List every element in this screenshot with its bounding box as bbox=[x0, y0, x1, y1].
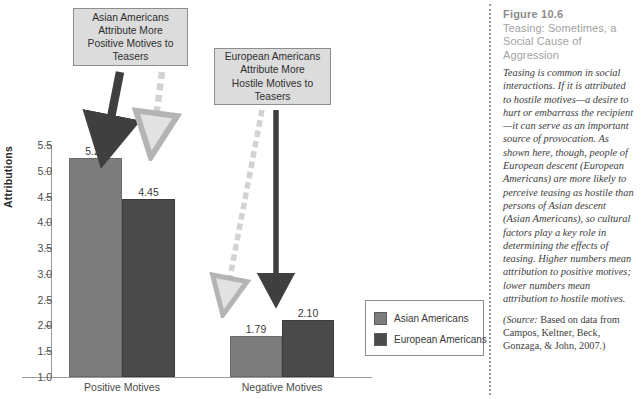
source-word: (Source: bbox=[503, 314, 538, 325]
bar-positive-asian bbox=[69, 158, 122, 377]
dashed-arrow-positive bbox=[155, 72, 162, 125]
y-tick-label: 3.5 bbox=[6, 242, 52, 254]
bar-negative-asian bbox=[230, 336, 282, 377]
callout-line: Teasers bbox=[225, 90, 321, 103]
callout-asian-positive: Asian Americans Attribute More Positive … bbox=[73, 8, 188, 66]
bar-value-negative-asian: 1.79 bbox=[246, 323, 266, 335]
y-tick-label: 5.0 bbox=[6, 165, 52, 177]
y-tick-label: 2.5 bbox=[6, 294, 52, 306]
figure-root: Attributions 1.0 1.5 2.0 2.5 3.0 3.5 4.0… bbox=[0, 0, 641, 399]
legend-item-asian-americans: Asian Americans bbox=[374, 308, 475, 329]
figure-source: (Source: Based on data from Campos, Kelt… bbox=[503, 313, 635, 352]
bar-positive-european bbox=[122, 199, 175, 377]
callout-line: Teasers bbox=[88, 50, 174, 63]
legend-label: European Americans bbox=[394, 334, 487, 345]
y-tick-label: 1.0 bbox=[6, 371, 52, 383]
legend-swatch-icon bbox=[374, 333, 387, 346]
callout-european-hostile: European Americans Attribute More Hostil… bbox=[214, 48, 331, 105]
x-group-label-positive: Positive Motives bbox=[84, 381, 160, 393]
y-tick-label: 3.0 bbox=[6, 268, 52, 280]
x-group-label-negative: Negative Motives bbox=[242, 381, 323, 393]
figure-title: Teasing: Sometimes, a Social Cause of Ag… bbox=[503, 22, 635, 63]
y-tick-label: 1.5 bbox=[6, 345, 52, 357]
bar-negative-european bbox=[282, 320, 334, 377]
y-tick-label: 5.5 bbox=[6, 139, 52, 151]
plot-area bbox=[52, 145, 372, 377]
legend-item-european-americans: European Americans bbox=[374, 329, 475, 350]
y-tick-label: 2.0 bbox=[6, 319, 52, 331]
callout-line: Asian Americans bbox=[88, 11, 174, 24]
figure-caption-body: Teasing is common in social interactions… bbox=[503, 66, 635, 305]
bar-value-negative-european: 2.10 bbox=[298, 307, 318, 319]
y-tick-label: 4.0 bbox=[6, 216, 52, 228]
figure-number: Figure 10.6 bbox=[503, 8, 635, 22]
callout-line: Attribute More bbox=[225, 63, 321, 76]
bar-value-positive-asian: 5.25 bbox=[85, 145, 105, 157]
legend-label: Asian Americans bbox=[394, 313, 468, 324]
callout-line: European Americans bbox=[225, 50, 321, 63]
chart-legend: Asian Americans European Americans bbox=[365, 300, 484, 356]
caption-panel: Figure 10.6 Teasing: Sometimes, a Social… bbox=[491, 0, 641, 399]
callout-line: Hostile Motives to bbox=[225, 77, 321, 90]
y-tick-label: 4.5 bbox=[6, 191, 52, 203]
legend-swatch-icon bbox=[374, 312, 387, 325]
chart-panel: Attributions 1.0 1.5 2.0 2.5 3.0 3.5 4.0… bbox=[0, 0, 490, 399]
callout-line: Attribute More bbox=[88, 24, 174, 37]
bar-value-positive-european: 4.45 bbox=[138, 186, 158, 198]
solid-arrow-positive bbox=[108, 72, 120, 133]
x-axis-line bbox=[22, 377, 372, 378]
callout-line: Positive Motives to bbox=[88, 37, 174, 50]
